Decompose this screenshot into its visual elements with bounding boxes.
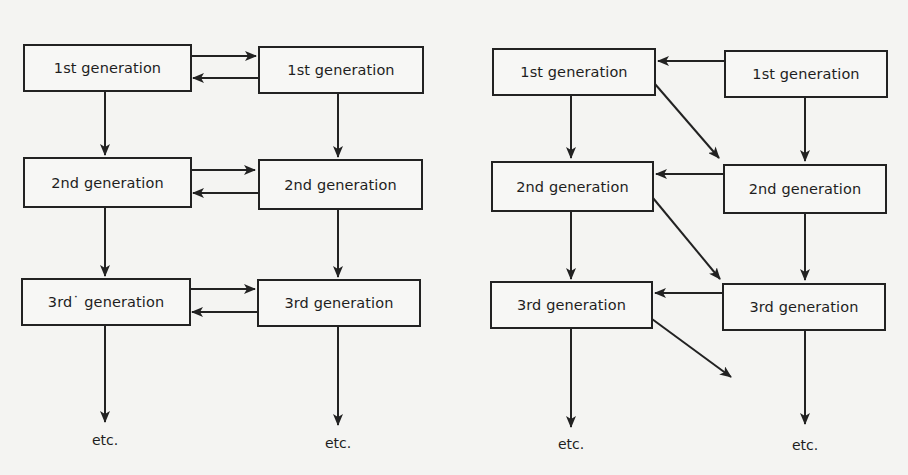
right-arrow-a2-to-b3 [653, 198, 720, 279]
box-label: 3rd˙ generation [48, 294, 164, 310]
box-label: 2nd generation [516, 179, 629, 195]
right-arrow-a3-to-next [652, 319, 731, 377]
right-col-a-gen3-box: 3rd generation [490, 281, 653, 329]
right-col-b-gen2-box: 2nd generation [723, 164, 887, 214]
left-col-a-gen2-box: 2nd generation [23, 157, 192, 208]
box-label: 1st generation [54, 60, 161, 76]
left-col-b-gen2-box: 2nd generation [258, 159, 423, 210]
figure-canvas: 1st generation 2nd generation 3rd˙ gener… [0, 0, 908, 475]
right-col-a-gen2-box: 2nd generation [491, 161, 654, 212]
right-col-b-etc: etc. [792, 437, 818, 453]
box-label: 1st generation [287, 62, 394, 78]
right-col-a-etc: etc. [558, 436, 584, 452]
box-label: 1st generation [520, 64, 627, 80]
left-col-a-gen1-box: 1st generation [23, 44, 192, 92]
left-col-b-etc: etc. [325, 435, 351, 451]
left-col-a-etc: etc. [92, 432, 118, 448]
box-label: 1st generation [752, 66, 859, 82]
left-col-b-gen3-box: 3rd generation [257, 279, 421, 327]
right-col-b-gen3-box: 3rd generation [722, 283, 886, 331]
box-label: 2nd generation [284, 177, 397, 193]
right-arrow-a1-to-b2 [655, 84, 719, 158]
left-col-b-gen1-box: 1st generation [258, 46, 424, 94]
left-col-a-gen3-box: 3rd˙ generation [21, 278, 191, 326]
box-label: 2nd generation [51, 175, 164, 191]
box-label: 3rd generation [517, 297, 626, 313]
right-col-a-gen1-box: 1st generation [492, 48, 656, 96]
box-label: 2nd generation [749, 181, 862, 197]
box-label: 3rd generation [284, 295, 393, 311]
box-label: 3rd generation [749, 299, 858, 315]
right-col-b-gen1-box: 1st generation [724, 50, 888, 98]
